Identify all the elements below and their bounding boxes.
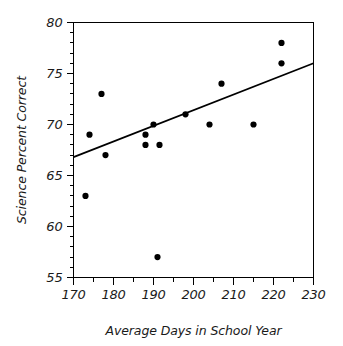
x-axis-tick-label: 230 (301, 287, 325, 302)
data-point (98, 91, 104, 97)
data-point (142, 132, 148, 138)
data-point (218, 81, 224, 87)
y-axis-tick-label: 80 (46, 15, 62, 30)
y-axis-tick-label: 55 (46, 270, 62, 285)
data-point (82, 193, 88, 199)
y-axis-tick-label: 75 (46, 66, 62, 81)
chart-canvas: 556065707580170180190200210220230Average… (0, 0, 343, 346)
y-axis-tick-label: 60 (46, 219, 62, 234)
data-point (182, 111, 188, 117)
data-point (250, 121, 256, 127)
y-axis-tick-label: 70 (46, 117, 62, 132)
data-point (150, 121, 156, 127)
x-axis-tick-label: 180 (101, 287, 125, 302)
data-point (102, 152, 108, 158)
x-axis-tick-label: 170 (61, 287, 85, 302)
scatter-chart-figure: 556065707580170180190200210220230Average… (0, 0, 343, 346)
data-point (154, 254, 160, 260)
y-axis-title: Science Percent Correct (14, 75, 29, 224)
x-axis-title: Average Days in School Year (104, 323, 282, 338)
trend-line (74, 63, 314, 157)
data-point (156, 142, 162, 148)
data-point (86, 132, 92, 138)
data-point (278, 40, 284, 46)
data-point (206, 121, 212, 127)
data-point (278, 60, 284, 66)
y-axis-tick-label: 65 (46, 168, 62, 183)
x-axis-tick-label: 200 (181, 287, 205, 302)
x-axis-tick-label: 220 (261, 287, 285, 302)
data-point (142, 142, 148, 148)
x-axis-tick-label: 190 (141, 287, 165, 302)
x-axis-tick-label: 210 (221, 287, 245, 302)
